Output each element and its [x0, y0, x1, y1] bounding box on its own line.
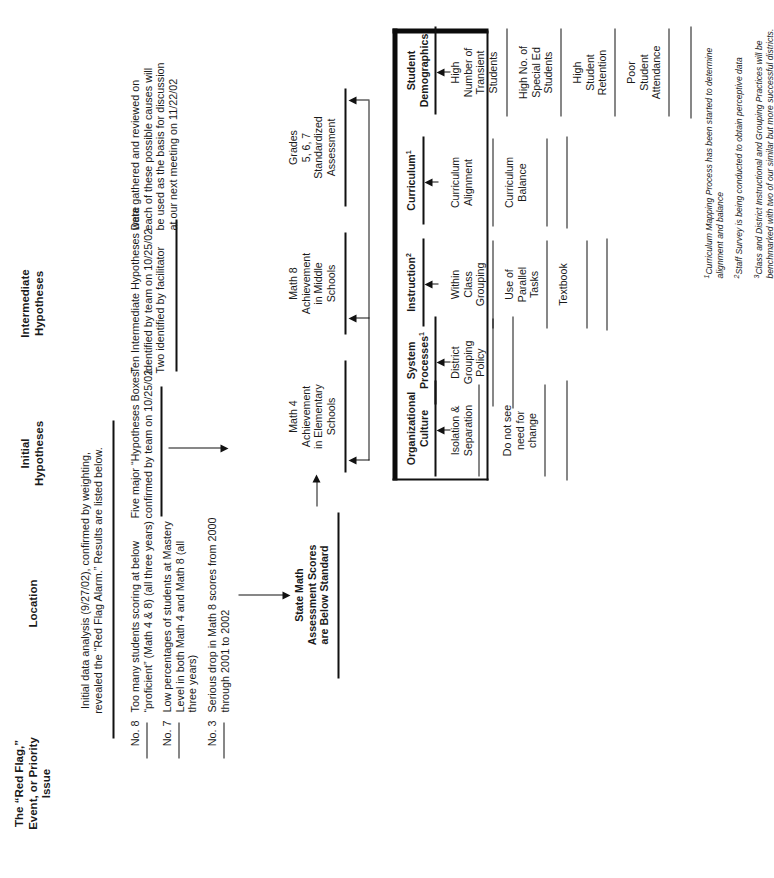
findings-to-effect-connector — [238, 594, 284, 595]
location-bracket-arrow-2 — [348, 315, 356, 323]
hypotheses-note-intermediate: Ten Intermediate Hypotheses were identif… — [128, 213, 166, 373]
cause-curriculum-balance: Curriculum Balance — [502, 134, 527, 230]
findings-to-effect-arrow — [282, 592, 290, 600]
bone-label-curriculum-text: Curriculum — [405, 154, 417, 211]
effect-label: State Math Assessment Scores are Below S… — [292, 507, 330, 682]
effect-rule — [337, 512, 339, 678]
cause-arrow-3 — [424, 281, 432, 289]
footnote-marker-3: 3 — [752, 274, 759, 278]
finding-rule-2 — [178, 722, 179, 758]
hypotheses-note-initial-rule — [160, 386, 162, 516]
cause-parallel-tasks: Use of Parallel Tasks — [502, 236, 540, 332]
analysis-note-rule — [112, 420, 114, 738]
location-rule-3 — [344, 88, 346, 206]
column-header-location: Location — [26, 543, 40, 663]
footnote-block-3: 3Class and District Instructional and Gr… — [752, 10, 774, 278]
cause-arrow-1 — [436, 69, 444, 77]
cause-rule-district-grouping-policy — [492, 318, 493, 406]
location-rule-1 — [344, 360, 346, 472]
footnote-text-2: Staff Survey is being conducted to obtai… — [734, 57, 744, 274]
effect-to-spine-line — [316, 480, 317, 506]
footnote-text-3: Class and District Instructional and Gro… — [754, 28, 774, 278]
cause-special-ed: High No. of Special Ed Students — [516, 24, 554, 120]
finding-number-3: No. 3 — [205, 720, 218, 760]
cause-poor-attendance: Poor Student Attendance — [624, 24, 662, 120]
feeder-rail-instruction — [606, 238, 607, 330]
finding-number-1: No. 8 — [128, 720, 141, 760]
cause-rule-within-class-grouping — [492, 240, 493, 328]
location-label-2: Math 8 Achievement in Middle Schools — [286, 228, 336, 338]
cause-rule-poor-attendance — [668, 28, 669, 116]
column-header-initial-hypotheses: Initial Hypotheses — [18, 388, 45, 518]
cause-isolation-separation: Isolation & Separation — [448, 380, 473, 480]
feeder-rail-system — [512, 316, 513, 408]
location-bracket-line — [368, 100, 369, 460]
feeder-rail-curriculum — [566, 136, 567, 228]
hypotheses-note-initial: Five major “Hypotheses Boxes” confirmed … — [128, 380, 153, 518]
location-label-1: Math 4 Achievement in Elementary Schools — [286, 356, 336, 476]
feeder-rail-demographics — [690, 26, 691, 118]
footnote-text-1: Curriculum Mapping Process has been star… — [704, 47, 724, 278]
location-bracket-arrow-3 — [348, 97, 356, 105]
finding-text-2: Low percentages of students at Mastery L… — [160, 402, 198, 712]
hypotheses-note-data: Data gathered and reviewed on each of th… — [128, 40, 179, 230]
initial-to-intermediate-arrow — [220, 445, 228, 453]
bone-label-curriculum: Curriculum1 — [404, 132, 417, 228]
cause-textbook: Textbook — [556, 236, 569, 332]
location-bracket-arrow-1 — [348, 457, 356, 465]
feeder-rail-culture — [566, 380, 567, 480]
hypotheses-note-intermediate-rule — [175, 219, 177, 371]
cause-rule-student-retention — [614, 28, 615, 116]
bone-footnote-marker-system-processes: 1 — [417, 332, 424, 336]
finding-number-2: No. 7 — [160, 720, 173, 760]
location-rule-2 — [344, 232, 346, 334]
cause-rule-parallel-tasks — [546, 240, 547, 328]
bone-label-student-demographics: Student Demographics — [404, 22, 429, 118]
cause-rule-curriculum-balance — [546, 138, 547, 226]
cause-rule-isolation-separation — [478, 384, 479, 476]
column-header-intermediate-hypotheses: Intermediate Hypotheses — [18, 233, 45, 373]
cause-arrow-4 — [436, 359, 444, 367]
footnote-marker-1: 1 — [702, 274, 709, 278]
initial-to-intermediate-connector — [168, 447, 222, 448]
bone-footnote-marker-instruction: 2 — [404, 253, 411, 257]
cause-curriculum-alignment: Curriculum Alignment — [448, 134, 473, 230]
bone-label-organizational-culture: Organizational Culture — [404, 376, 429, 480]
footnote-marker-2: 2 — [732, 274, 739, 278]
cause-arrow-5 — [436, 427, 444, 435]
cause-student-retention: High Student Retention — [570, 24, 608, 120]
cause-arrow-2 — [424, 179, 432, 187]
cause-rule-no-need-for-change — [544, 384, 545, 476]
analysis-note: Initial data analysis (9/27/02), confirm… — [78, 415, 103, 745]
cause-high-transient: High Number of Transient Students — [448, 24, 498, 120]
finding-rule-1 — [146, 722, 147, 758]
finding-rule-3 — [223, 722, 224, 758]
bone-footnote-marker-curriculum: 1 — [404, 150, 411, 154]
fishbone-main-spine — [392, 28, 397, 480]
column-header-red-flag: The “Red Flag,” Event, or Priority Issue — [12, 708, 53, 858]
cause-rule-high-transient — [506, 28, 507, 116]
cause-rule-curriculum-alignment — [492, 138, 493, 226]
location-label-3: Grades 5, 6, 7 Standardized Assessment — [286, 84, 336, 210]
cause-no-need-for-change: Do not see need for change — [500, 380, 538, 480]
footnote-block-1: 1Curriculum Mapping Process has been sta… — [702, 28, 724, 278]
cause-rule-textbook — [586, 240, 587, 328]
bone-label-instruction-text: Instruction — [405, 257, 417, 312]
footnote-block-2: 2Staff Survey is being conducted to obta… — [732, 28, 744, 278]
cause-rule-special-ed — [560, 28, 561, 116]
